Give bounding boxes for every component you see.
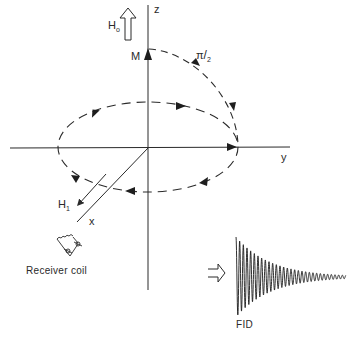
receiver-coil-label: Receiver coil: [26, 266, 87, 276]
static-field-label: Ho: [108, 20, 120, 31]
static-field-arrow-icon: [120, 8, 136, 40]
precession-arrow-icon-top-left: [91, 108, 101, 117]
fid-label: FID: [236, 320, 253, 330]
precession-arrow-icon-bottom-right: [199, 177, 208, 186]
rf-field-symbol: H: [58, 198, 66, 210]
precession-arrow-icon-bottom: [125, 187, 135, 195]
pulse-denominator: 2: [207, 56, 211, 63]
pulse-angle-label: π/2: [196, 49, 211, 61]
magnetization-arrowhead-icon: [144, 48, 152, 60]
diagram-canvas: [0, 0, 354, 337]
x-axis-label: x: [89, 216, 95, 227]
precession-arrow-icon-bottom-left: [71, 175, 80, 183]
pulse-numerator: π: [196, 49, 204, 61]
magnetization-label: M: [131, 51, 140, 62]
y-axis-label: y: [281, 152, 287, 163]
rf-field-vector: [78, 174, 106, 205]
fid-waveform: [236, 237, 346, 315]
static-field-subscript: o: [116, 26, 120, 33]
arc-arrow-icon-2: [229, 102, 236, 111]
receiver-coil-icon: [57, 235, 82, 257]
x-axis: [77, 148, 148, 222]
y-axis: [10, 147, 290, 148]
static-field-symbol: H: [108, 19, 116, 31]
rf-field-label: H1: [58, 199, 70, 210]
nmr-fid-diagram: z y x Ho M π/2 H1 Receiver coil FID: [0, 0, 354, 337]
precession-arrow-icon-y: [227, 143, 237, 151]
leads-to-arrow-icon: [208, 264, 225, 282]
precession-arrow-icon-top-right: [176, 102, 186, 110]
z-axis-label: z: [154, 4, 160, 15]
rf-field-subscript: 1: [66, 205, 70, 212]
